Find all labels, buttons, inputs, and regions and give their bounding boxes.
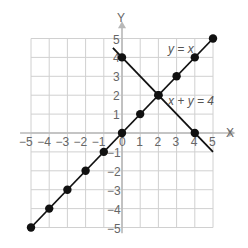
data-point xyxy=(118,53,126,61)
x-tick-label: −3 xyxy=(55,135,69,149)
x-axis-label: X xyxy=(226,126,234,140)
data-point xyxy=(118,129,126,137)
y-tick-label: −4 xyxy=(107,203,121,217)
y-tick-label: −3 xyxy=(107,184,121,198)
data-point xyxy=(63,186,71,194)
x-tick-label: −4 xyxy=(37,135,51,149)
label-x-plus-y-equals-4: x + y = 4 xyxy=(167,94,214,108)
data-point xyxy=(100,148,108,156)
data-point xyxy=(27,223,35,231)
data-point xyxy=(191,129,199,137)
data-point xyxy=(136,110,144,118)
x-tick-label: 2 xyxy=(154,135,161,149)
x-tick-label: 3 xyxy=(173,135,180,149)
data-point xyxy=(209,34,217,42)
label-y-equals-x: y = x xyxy=(167,42,195,56)
x-tick-label: −2 xyxy=(74,135,88,149)
y-tick-label: 2 xyxy=(113,89,120,103)
data-point xyxy=(154,91,162,99)
y-tick-label: −5 xyxy=(107,222,121,236)
x-tick-label: 5 xyxy=(209,135,216,149)
coordinate-plane: −5−4−3−2−1012345−5−4−3−2−112345 y = x x … xyxy=(0,0,248,248)
y-tick-label: −1 xyxy=(107,146,121,160)
data-point xyxy=(172,72,180,80)
x-tick-label: −5 xyxy=(19,135,33,149)
y-axis-label: Y xyxy=(117,11,125,25)
y-tick-label: 3 xyxy=(113,70,120,84)
data-point xyxy=(81,167,89,175)
x-tick-label: 1 xyxy=(136,135,143,149)
y-tick-label: 5 xyxy=(113,33,120,47)
data-point xyxy=(45,204,53,212)
y-tick-label: −2 xyxy=(107,165,121,179)
y-tick-label: 1 xyxy=(113,108,120,122)
x-tick-label: −1 xyxy=(92,135,106,149)
